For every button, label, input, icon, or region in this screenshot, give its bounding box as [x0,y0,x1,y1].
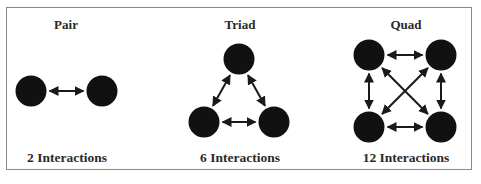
panel-caption-triad: 6 Interactions [200,150,280,166]
panel-caption-quad: 12 Interactions [363,150,450,166]
node-quad [354,112,385,143]
node-triad [224,44,255,75]
panel-title-triad: Triad [225,17,256,33]
double-arrow-triad [213,75,230,106]
panel-title-quad: Quad [390,17,421,33]
node-pair [87,76,118,107]
node-quad [354,40,385,71]
node-pair [16,76,47,107]
panel-title-pair: Pair [54,17,78,33]
panel-caption-pair: 2 Interactions [27,150,107,166]
double-arrow-triad [248,75,265,106]
node-quad [426,112,457,143]
node-triad [189,107,220,138]
node-triad [259,107,290,138]
node-quad [426,40,457,71]
